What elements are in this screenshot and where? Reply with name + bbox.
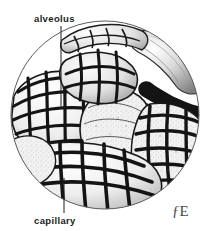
illustration-figure: alveolus capillary ƒE (0, 0, 213, 231)
alveolus-capillary-diagram: alveolus capillary ƒE (0, 0, 213, 231)
artist-monogram: ƒE (172, 203, 189, 219)
label-alveolus: alveolus (34, 13, 75, 24)
label-capillary: capillary (34, 215, 76, 226)
